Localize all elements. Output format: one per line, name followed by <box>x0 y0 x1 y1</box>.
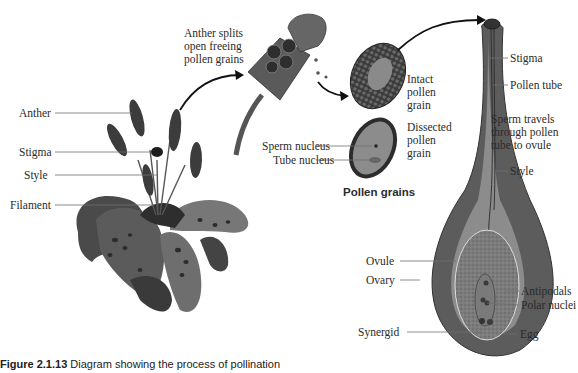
arrow-head-icon <box>340 91 349 101</box>
arrow-to-stigma <box>398 20 480 50</box>
label-intact-pollen-grain: Intact pollen grain <box>407 73 436 112</box>
arrow-to-anther <box>180 75 240 110</box>
label-sperm-nucleus: Sperm nucleus <box>262 140 330 153</box>
dissected-pollen-grain <box>340 110 407 187</box>
intact-pollen-grain <box>340 34 416 118</box>
label-style-pistil: Style <box>510 165 534 178</box>
sperm-travels-note: Sperm travels through pollen tube to ovu… <box>491 113 558 152</box>
label-filament: Filament <box>10 199 51 212</box>
caption-text: Diagram showing the process of pollinati… <box>70 358 280 370</box>
label-anther: Anther <box>19 107 51 120</box>
label-antipodals: Antipodals <box>521 285 571 298</box>
arrow-head-icon <box>235 70 244 80</box>
label-pollen-tube: Pollen tube <box>510 79 562 92</box>
label-ovary: Ovary <box>366 274 395 287</box>
label-style-flower: Style <box>24 169 48 182</box>
caption-number: Figure 2.1.13 <box>0 358 67 370</box>
label-synergid: Synergid <box>358 326 399 339</box>
figure-caption: Figure 2.1.13 Diagram showing the proces… <box>0 358 280 370</box>
anther-detail <box>236 14 328 155</box>
pollen-grains-heading: Pollen grains <box>343 186 415 199</box>
label-polar-nuclei: Polar nuclei <box>521 299 576 312</box>
label-stigma-flower: Stigma <box>19 146 52 159</box>
label-egg: Egg <box>520 328 539 341</box>
label-ovule: Ovule <box>366 255 394 268</box>
label-tube-nucleus: Tube nucleus <box>273 154 334 167</box>
anther-splits-note: Anther splits open freeing pollen grains <box>184 27 236 66</box>
label-dissected-pollen-grain: Dissected pollen grain <box>407 121 452 160</box>
label-stigma-pistil: Stigma <box>510 52 543 65</box>
